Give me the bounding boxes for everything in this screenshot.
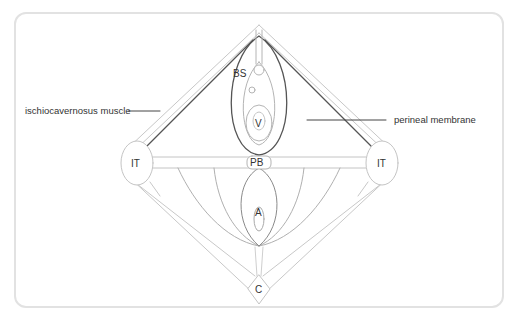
label-perineal-body: PB [250, 157, 264, 168]
label-anus: A [255, 207, 262, 218]
label-it-right: IT [377, 158, 386, 169]
label-it-left: IT [131, 158, 140, 169]
label-bulb: BS [233, 68, 247, 79]
callout-perineal-membrane: perineal membrane [394, 114, 476, 125]
callout-ischiocavernosus: ischiocavernosus muscle [25, 105, 131, 116]
clitoris-shape [254, 65, 264, 75]
perineum-diagram: BS V PB A C IT IT ischiocavernosus muscl… [0, 0, 525, 321]
label-coccyx: C [255, 284, 262, 295]
label-vagina: V [255, 118, 262, 129]
